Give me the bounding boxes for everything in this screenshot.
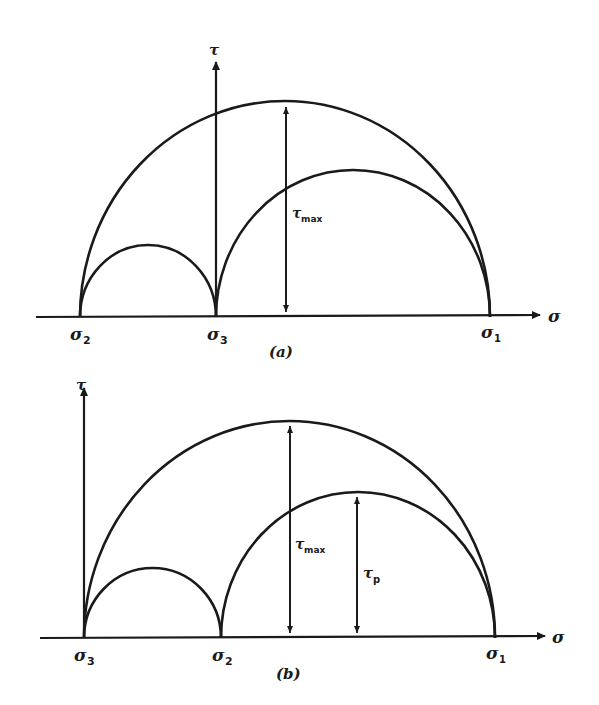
sigma-subscript: 2 (83, 334, 91, 347)
mohr-circles-figure: τ σ σ 2 σ 3 σ 1 τ max (a) (0, 0, 599, 705)
label-sigma-1: σ 1 (481, 322, 501, 344)
mohr-circle-small (84, 568, 221, 638)
tau-subscript: max (304, 545, 325, 555)
label-sigma-3: σ 3 (74, 645, 95, 668)
sigma-symbol: σ (486, 643, 499, 663)
label-sigma-3: σ 3 (207, 324, 228, 347)
sigma-symbol: σ (74, 645, 87, 665)
sigma-subscript: 1 (494, 333, 501, 344)
sigma-symbol: σ (481, 322, 494, 342)
sigma-axis-label: σ (552, 627, 565, 647)
sigma-subscript: 2 (225, 655, 233, 668)
caption-a: (a) (269, 343, 293, 361)
sigma-axis-arrow (40, 636, 545, 638)
mohr-circle-medium (216, 170, 490, 317)
mohr-circle-large (80, 101, 490, 317)
sigma-symbol: σ (212, 645, 225, 665)
label-sigma-2: σ 2 (70, 324, 91, 347)
sigma-axis-label: σ (548, 306, 561, 326)
sigma-subscript: 1 (499, 654, 506, 665)
tau-axis-label: τ (209, 41, 220, 59)
label-sigma-2: σ 2 (212, 645, 233, 668)
sigma-subscript: 3 (87, 655, 95, 668)
mohr-circle-small (80, 245, 216, 317)
sigma-symbol: σ (70, 324, 83, 344)
tau-subscript: max (301, 214, 322, 224)
panel-b: τ σ σ 3 σ 2 σ 1 τ max τ p (b) (40, 376, 565, 683)
mohr-circle-medium (221, 492, 495, 638)
caption-b: (b) (276, 665, 301, 683)
tau-axis-label: τ (76, 376, 87, 394)
label-tau-p: τ p (363, 564, 380, 585)
sigma-subscript: 3 (220, 334, 228, 347)
sigma-axis-arrow (36, 315, 540, 317)
label-tau-max: τ max (295, 536, 325, 555)
label-tau-max: τ max (292, 205, 322, 224)
tau-subscript: p (373, 574, 380, 585)
label-sigma-1: σ 1 (486, 643, 506, 665)
sigma-symbol: σ (207, 324, 220, 344)
panel-a: τ σ σ 2 σ 3 σ 1 τ max (a) (36, 41, 561, 361)
